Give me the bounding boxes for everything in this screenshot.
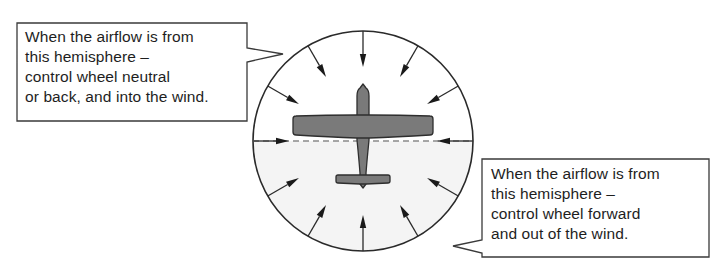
callout-line: control wheel forward — [491, 204, 660, 224]
upper-hemisphere-callout-text: When the airflow is from this hemisphere… — [25, 27, 209, 107]
callout-line: this hemisphere – — [491, 184, 660, 204]
callout-line: control wheel neutral — [25, 67, 209, 87]
arrow-inward-icon — [360, 31, 366, 67]
callout-line: When the airflow is from — [25, 27, 209, 47]
arrow-inward-icon — [400, 46, 418, 77]
arrow-inward-icon — [308, 46, 326, 77]
callout-line: this hemisphere – — [25, 47, 209, 67]
arrow-inward-icon — [427, 86, 458, 104]
lower-hemisphere-callout-text: When the airflow is from this hemisphere… — [491, 164, 660, 244]
callout-line: and out of the wind. — [491, 224, 660, 244]
callout-line: or back, and into the wind. — [25, 87, 209, 107]
arrow-inward-icon — [268, 86, 299, 104]
callout-line: When the airflow is from — [491, 164, 660, 184]
